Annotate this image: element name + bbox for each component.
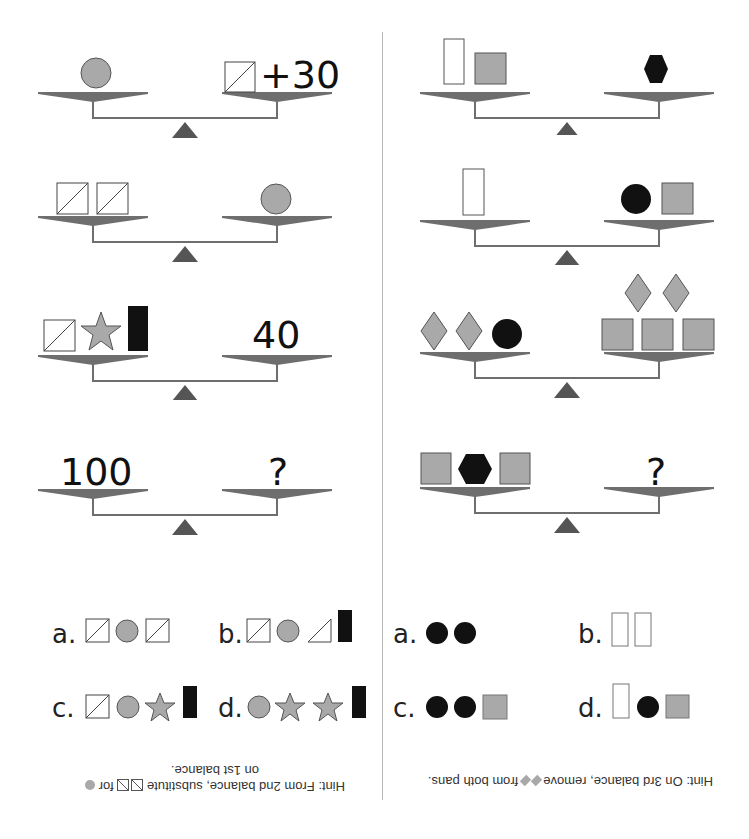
- left-hint-line1: Hint: From 2nd balance, substitute for: [85, 778, 345, 794]
- diamond-gray-icon: [530, 775, 541, 786]
- square-slash-icon: [225, 62, 255, 92]
- circle-black-icon: [426, 696, 448, 718]
- circle-gray-icon: [277, 620, 299, 642]
- circle-black-icon: [637, 696, 659, 718]
- b3-right-text: 40: [252, 313, 300, 357]
- choice-a[interactable]: a.: [52, 619, 169, 649]
- choice-c[interactable]: c.: [393, 693, 476, 723]
- rect-black-icon: [183, 686, 197, 718]
- square-gray-icon: [421, 453, 451, 484]
- right-hint: Hint: On 3rd balance, remove from both p…: [423, 773, 713, 789]
- svg-text:a.: a.: [393, 619, 417, 649]
- right-balance-3: [400, 270, 730, 400]
- diamond-gray-icon: [520, 775, 531, 786]
- choice-b[interactable]: b.: [578, 613, 651, 649]
- square-slash-icon: [131, 779, 143, 791]
- choice-b[interactable]: b.: [218, 610, 352, 649]
- square-gray-icon: [683, 319, 714, 350]
- star-gray-icon: [145, 693, 175, 721]
- square-slash-icon: [117, 779, 129, 791]
- square-slash-icon: [146, 619, 169, 642]
- right-balance-1: [400, 35, 730, 135]
- rect-white-icon: [612, 613, 628, 646]
- circle-gray-icon: [81, 58, 111, 88]
- svg-text:c.: c.: [52, 693, 75, 723]
- diamond-gray-icon: [625, 274, 651, 312]
- square-gray-icon: [500, 453, 530, 484]
- rect-black-icon: [338, 610, 352, 642]
- b4-left-text: 100: [60, 450, 133, 494]
- rect-black-icon: [352, 686, 366, 718]
- square-slash-icon: [247, 619, 270, 642]
- b4-right-text: ?: [268, 450, 288, 494]
- square-slash-icon: [86, 695, 109, 718]
- choice-c[interactable]: c.: [52, 686, 197, 723]
- right-choices: a. b. c. d.: [385, 605, 730, 725]
- square-gray-icon: [483, 695, 507, 719]
- star-gray-icon: [313, 693, 343, 721]
- left-balance-3: 40: [30, 290, 360, 400]
- circle-black-icon: [454, 622, 476, 644]
- choice-a[interactable]: a.: [393, 619, 476, 649]
- triangle-half-icon: [308, 619, 331, 642]
- square-gray-icon: [475, 53, 506, 84]
- square-gray-icon: [642, 319, 673, 350]
- circle-black-icon: [492, 319, 522, 349]
- right-b4-right-text: ?: [646, 450, 666, 494]
- svg-text:d.: d.: [218, 693, 243, 723]
- svg-text:c.: c.: [393, 693, 416, 723]
- square-gray-icon: [602, 319, 633, 350]
- hexagon-black-icon: [644, 55, 668, 83]
- right-balance-2: [400, 155, 730, 265]
- circle-black-icon: [621, 184, 651, 214]
- circle-gray-icon: [85, 780, 95, 790]
- circle-gray-icon: [117, 696, 139, 718]
- left-balance-1: +30: [30, 40, 360, 140]
- left-hint: Hint: From 2nd balance, substitute for o…: [85, 762, 345, 794]
- circle-gray-icon: [248, 696, 270, 718]
- rect-white-icon: [444, 39, 464, 84]
- left-hint-line2: on 1st balance.: [85, 762, 345, 778]
- square-slash-icon: [57, 183, 88, 214]
- circle-black-icon: [454, 696, 476, 718]
- choice-d[interactable]: d.: [218, 686, 366, 723]
- square-gray-icon: [662, 183, 693, 214]
- hexagon-black-icon: [458, 454, 492, 484]
- choice-d[interactable]: d.: [578, 684, 689, 723]
- circle-gray-icon: [261, 184, 291, 214]
- star-gray-icon: [81, 312, 121, 350]
- circle-gray-icon: [116, 620, 138, 642]
- rect-white-icon: [463, 169, 484, 215]
- b1-right-text: +30: [260, 53, 340, 97]
- right-hint-line1: Hint: On 3rd balance, remove from both p…: [423, 773, 713, 789]
- svg-text:d.: d.: [578, 693, 603, 723]
- diamond-gray-icon: [663, 274, 689, 312]
- svg-text:b.: b.: [218, 619, 243, 649]
- left-choices: a. b. c. d.: [40, 605, 380, 725]
- svg-text:b.: b.: [578, 619, 603, 649]
- square-slash-icon: [97, 183, 128, 214]
- rect-black-icon: [128, 306, 148, 351]
- column-divider: [382, 32, 383, 800]
- left-balance-2: [30, 165, 360, 265]
- square-slash-icon: [86, 619, 109, 642]
- diamond-gray-icon: [456, 312, 482, 350]
- square-slash-icon: [44, 320, 75, 351]
- circle-black-icon: [426, 622, 448, 644]
- svg-text:a.: a.: [52, 619, 76, 649]
- diamond-gray-icon: [421, 312, 447, 350]
- rect-white-icon: [635, 613, 651, 646]
- square-gray-icon: [666, 695, 689, 718]
- rect-white-icon: [613, 684, 629, 718]
- star-gray-icon: [275, 693, 305, 721]
- left-balance-4: 100 ?: [30, 435, 360, 535]
- right-balance-4: ?: [400, 435, 730, 535]
